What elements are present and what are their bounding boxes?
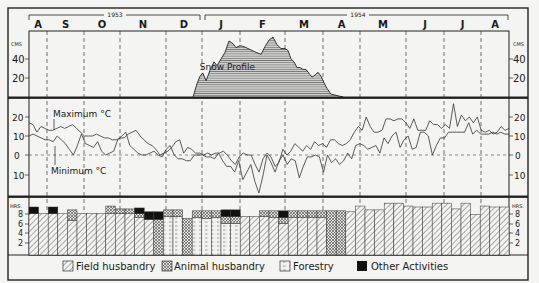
legend-item-forestry: Forestry	[280, 261, 334, 272]
bar-segment-animal	[135, 214, 145, 218]
temp-tick-0-left: 0	[14, 151, 20, 161]
bar-segment-field	[307, 218, 317, 255]
bar-segment-field	[58, 214, 68, 255]
hrs-tick-8-left: 8	[18, 210, 23, 219]
field-husbandry-swatch-icon	[63, 261, 73, 271]
hrs-tick-2-left: 2	[18, 239, 23, 248]
bar-segment-field	[375, 210, 385, 255]
bar-segment-field	[144, 219, 154, 255]
bar-segment-field	[48, 214, 58, 255]
year-label-1954: 1954	[350, 11, 365, 18]
snow-unit-right: CMS	[513, 41, 524, 47]
max-temp-label: Maximum °C	[53, 109, 111, 119]
month-label: M	[299, 19, 309, 30]
bar-segment-other	[135, 208, 145, 214]
bar-segment-animal	[279, 218, 289, 224]
bar-segment-animal	[259, 211, 269, 217]
bar-segment-field	[423, 207, 433, 255]
month-label: N	[139, 19, 147, 30]
bar-segment-field	[125, 214, 135, 255]
legend-item-other-activities: Other Activities	[357, 261, 448, 272]
bar-segment-animal	[211, 211, 221, 218]
bar-segment-other	[154, 212, 164, 220]
temp-tick-10-right: 10	[514, 132, 526, 142]
legend-label-forestry: Forestry	[293, 261, 334, 272]
temp-tick-minus10-right: 10	[514, 171, 526, 181]
bar-segment-field	[394, 203, 404, 255]
bar-segment-field	[259, 217, 269, 255]
temp-tick-20-right: 20	[514, 113, 526, 123]
forestry-swatch-icon	[280, 261, 290, 271]
bar-segment-animal	[173, 210, 183, 217]
month-label: S	[62, 19, 69, 30]
hrs-tick-4-right: 4	[515, 229, 520, 238]
bar-segment-animal	[307, 211, 317, 218]
bar-segment-animal	[269, 211, 279, 218]
temperature-panel: Maximum °C Minimum °C 20 10 0 10 20 10 0…	[12, 104, 526, 193]
legend-label-other: Other Activities	[371, 261, 448, 272]
bar-segment-animal	[221, 217, 231, 224]
bar-segment-forestry	[231, 223, 241, 255]
year-bracket-1953: 1953	[29, 11, 200, 20]
bar-segment-animal	[183, 219, 193, 255]
min-temp-label: Minimum °C	[51, 166, 106, 176]
bar-segment-field	[77, 214, 87, 255]
bar-segment-animal	[231, 217, 241, 224]
legend-label-animal: Animal husbandry	[174, 261, 265, 272]
month-label: O	[98, 19, 107, 30]
bar-segment-field	[413, 207, 423, 255]
bar-segment-field	[39, 214, 49, 255]
snow-unit-left: CMS	[11, 41, 22, 47]
bar-segment-field	[250, 217, 260, 255]
year-label-1953: 1953	[107, 11, 122, 18]
month-label: J	[460, 19, 465, 30]
bar-segment-field	[365, 210, 375, 255]
snow-tick-20-right: 20	[513, 73, 526, 84]
bar-segment-field	[471, 215, 481, 255]
temp-tick-20-left: 20	[12, 113, 24, 123]
hrs-tick-6-left: 6	[18, 220, 23, 229]
other-activities-swatch-icon	[357, 261, 367, 271]
bar-segment-field	[135, 218, 145, 255]
bar-segment-animal	[336, 211, 346, 255]
bar-segment-other	[144, 212, 154, 220]
bar-segment-field	[298, 218, 308, 255]
legend-item-animal-husbandry: Animal husbandry	[162, 261, 265, 272]
snow-tick-20-left: 20	[12, 73, 25, 84]
bar-segment-field	[480, 206, 490, 255]
bar-segment-animal	[317, 211, 327, 218]
bar-segment-field	[451, 209, 461, 255]
bar-segment-other	[29, 207, 39, 214]
bar-segment-field	[403, 206, 413, 255]
divider-temp-hours	[8, 196, 528, 198]
month-label: A	[338, 19, 346, 30]
bar-segment-animal	[67, 210, 77, 221]
bar-segment-field	[29, 214, 39, 255]
climate-activity-chart: 1953 1954 ASONDJFMAMJJA Snow Profile CMS…	[0, 0, 539, 283]
hrs-tick-6-right: 6	[515, 220, 520, 229]
month-label: A	[491, 19, 499, 30]
bar-segment-forestry	[163, 217, 173, 255]
bar-segment-field	[432, 203, 442, 255]
activity-bars	[29, 203, 509, 255]
bar-segment-animal	[163, 210, 173, 217]
bar-segment-other	[48, 207, 58, 214]
snow-panel: Snow Profile CMS 40 20 CMS 40 20	[11, 37, 526, 97]
legend-label-field: Field husbandry	[76, 261, 155, 272]
hrs-tick-8-right: 8	[515, 210, 520, 219]
bar-segment-field	[442, 203, 452, 255]
bar-segment-field	[461, 203, 471, 255]
temp-tick-minus10-left: 10	[13, 171, 25, 181]
hrs-unit-right: HRS.	[512, 203, 524, 209]
legend-item-field-husbandry: Field husbandry	[63, 261, 155, 272]
bar-segment-field	[279, 223, 289, 255]
snow-tick-40-right: 40	[513, 54, 526, 65]
hrs-unit-left: HRS.	[10, 203, 22, 209]
bar-segment-forestry	[211, 218, 221, 255]
bar-segment-forestry	[173, 217, 183, 255]
bar-segment-field	[115, 214, 125, 255]
month-label: J	[218, 19, 223, 30]
bar-segment-animal	[192, 211, 202, 218]
bar-segment-forestry	[221, 223, 231, 255]
bar-segment-field	[499, 207, 509, 255]
